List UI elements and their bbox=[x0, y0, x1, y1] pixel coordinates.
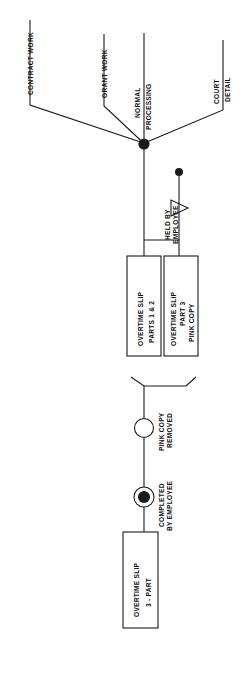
label-processing: PROCESSING bbox=[145, 84, 153, 130]
merge-bracket bbox=[131, 377, 196, 386]
completed-by-employee-inner-dot bbox=[138, 491, 150, 503]
label-pink-copy-removed-line2: REMOVED bbox=[166, 413, 174, 448]
branch-line-court-detail bbox=[145, 40, 224, 143]
label-pink-copy-removed-line1: PINK COPY bbox=[158, 412, 166, 451]
label-detail: DETAIL bbox=[224, 77, 232, 102]
box-part-3-line3: PINK COPY bbox=[188, 303, 196, 342]
flowchart-lines bbox=[0, 0, 243, 698]
label-contract-work: CONTRACT WORK bbox=[27, 32, 35, 95]
box-part-3-line2: PART 3 bbox=[179, 302, 187, 326]
branch-junction-node bbox=[138, 138, 149, 149]
label-held-by-employee-line2: EMPLOYEE bbox=[172, 205, 180, 244]
box-3-part-line1: OVERTIME SLIP bbox=[133, 563, 141, 617]
box-part-3-line1: OVERTIME SLIP bbox=[170, 292, 178, 346]
pink-copy-removed-circle bbox=[135, 419, 154, 438]
label-court: COURT bbox=[213, 79, 221, 104]
box-3-part-line2: 3 - PART bbox=[145, 578, 153, 607]
flowchart-canvas: CONTRACT WORK GRANT WORK NORMAL PROCESSI… bbox=[0, 0, 243, 698]
label-grant-work: GRANT WORK bbox=[101, 49, 109, 98]
label-completed-by-employee-line2: BY EMPLOYEE bbox=[166, 481, 174, 531]
box-parts-1-2-line1: OVERTIME SLIP bbox=[137, 292, 145, 346]
held-by-employee-terminator-dot bbox=[175, 168, 183, 176]
label-held-by-employee-line1: HELD BY bbox=[164, 209, 172, 240]
branch-line-contract-work bbox=[30, 20, 144, 143]
label-completed-by-employee-line1: COMPLETED bbox=[158, 483, 166, 527]
label-normal: NORMAL bbox=[134, 88, 142, 118]
box-parts-1-2-line2: PARTS 1 & 2 bbox=[148, 301, 156, 343]
